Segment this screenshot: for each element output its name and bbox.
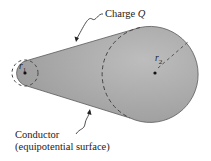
r2-subscript: 2 [159, 58, 163, 66]
charge-label-text: Charge [105, 8, 138, 19]
center-dot-2 [153, 71, 156, 74]
r1-label: r1 [19, 60, 26, 76]
r2-label: r2 [155, 52, 162, 68]
charge-label: Charge Q [105, 8, 145, 20]
charge-leader [76, 14, 103, 40]
r1-subscript: 1 [23, 66, 27, 74]
conductor-sublabel: (equipotential surface) [15, 141, 110, 153]
charge-arrowhead [75, 37, 80, 43]
conductor-leader [76, 111, 90, 134]
conductor-arrowhead [87, 109, 92, 115]
charge-symbol: Q [138, 8, 146, 19]
conductor-body [17, 26, 199, 122]
conductor-label: Conductor [15, 129, 59, 141]
